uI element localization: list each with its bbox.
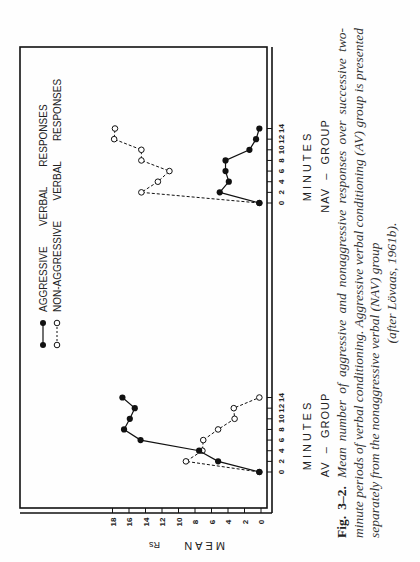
- open-circle-marker-icon: [200, 437, 206, 443]
- x-tick-label: 0: [277, 469, 286, 474]
- y-tick-label: 0: [257, 519, 266, 524]
- y-axis-ticks: 024681012141618: [109, 508, 267, 526]
- filled-circle-marker-icon: [253, 136, 259, 142]
- rotated-figure-page: 024681012141618 02468101214 02468101214 …: [0, 0, 420, 562]
- open-circle-marker-icon: [215, 427, 221, 433]
- open-circle-marker-icon: [111, 136, 117, 142]
- legend-nonaggressive-label: NON-AGGRESSIVE VERBAL RESPONSES: [52, 79, 63, 312]
- legend-filled-marker-icon: [40, 342, 46, 348]
- filled-circle-marker-icon: [196, 448, 202, 454]
- open-circle-marker-icon: [167, 168, 173, 174]
- nonaggressive-series-line: [114, 129, 259, 203]
- x-tick-label: 4: [277, 179, 286, 184]
- open-circle-marker-icon: [139, 147, 145, 153]
- x-tick-label: 10: [277, 414, 286, 423]
- filled-circle-marker-icon: [132, 405, 138, 411]
- x-tick-label: 14: [277, 124, 286, 133]
- open-circle-marker-icon: [139, 190, 145, 196]
- x-axis-title-av: MINUTES: [301, 400, 313, 471]
- av-group-plot: [119, 394, 262, 475]
- open-circle-marker-icon: [257, 395, 263, 401]
- filled-circle-marker-icon: [127, 416, 133, 422]
- figure-caption: Fig. 3–2.Mean number of aggressive and n…: [334, 28, 400, 538]
- filled-circle-marker-icon: [215, 458, 221, 464]
- filled-circle-marker-icon: [256, 200, 262, 206]
- open-circle-marker-icon: [112, 126, 118, 132]
- x-tick-label: 0: [277, 200, 286, 205]
- x-tick-label: 12: [277, 134, 286, 143]
- y-tick-label: 8: [191, 519, 200, 524]
- figure-chart: 024681012141618 02468101214 02468101214 …: [0, 0, 330, 562]
- x-axis-ticks-av: 02468101214: [267, 393, 286, 475]
- x-axis-title-nav: MINUTES: [301, 131, 313, 202]
- y-tick-label: 14: [142, 517, 151, 526]
- y-tick-label: 4: [224, 519, 233, 524]
- filled-circle-marker-icon: [246, 147, 252, 153]
- nav-group-plot: [111, 125, 262, 206]
- x-tick-label: 12: [277, 403, 286, 412]
- open-circle-marker-icon: [231, 405, 237, 411]
- y-tick-label: 18: [109, 517, 118, 526]
- filled-circle-marker-icon: [222, 157, 228, 163]
- y-tick-label: 12: [158, 517, 167, 526]
- y-tick-label: 6: [208, 519, 217, 524]
- open-circle-marker-icon: [139, 158, 145, 164]
- av-group-title: AV – GROUP: [319, 393, 330, 478]
- y-axis-subscript: Rs: [149, 540, 160, 550]
- filled-circle-marker-icon: [226, 179, 232, 185]
- filled-circle-marker-icon: [222, 168, 228, 174]
- legend-open-marker-icon: [54, 342, 60, 348]
- filled-circle-marker-icon: [121, 426, 127, 432]
- open-circle-marker-icon: [232, 416, 238, 422]
- filled-circle-marker-icon: [137, 437, 143, 443]
- legend: AGGRESSIVE VERBAL RESPONSES NON-AGGRESSI…: [38, 79, 63, 348]
- caption-line-1: Mean number of aggressive and nonaggress…: [334, 58, 349, 478]
- aggressive-series-line: [122, 398, 259, 472]
- filled-circle-marker-icon: [119, 394, 125, 400]
- y-axis-title: MEAN: [181, 540, 225, 552]
- filled-circle-marker-icon: [256, 469, 262, 475]
- legend-open-marker-icon: [54, 320, 60, 326]
- x-tick-label: 6: [277, 437, 286, 442]
- filled-circle-marker-icon: [217, 189, 223, 195]
- x-tick-label: 10: [277, 145, 286, 154]
- legend-filled-marker-icon: [40, 320, 46, 326]
- x-tick-label: 2: [277, 190, 286, 195]
- x-tick-label: 8: [277, 427, 286, 432]
- y-tick-label: 2: [241, 519, 250, 524]
- open-circle-marker-icon: [183, 459, 189, 465]
- x-tick-label: 14: [277, 393, 286, 402]
- nav-group-title: NAV – GROUP: [319, 119, 330, 212]
- x-tick-label: 4: [277, 448, 286, 453]
- x-tick-label: 6: [277, 168, 286, 173]
- legend-aggressive-label: AGGRESSIVE VERBAL RESPONSES: [38, 104, 49, 312]
- open-circle-marker-icon: [155, 179, 161, 185]
- figure-label: Fig. 3–2.: [334, 486, 349, 538]
- filled-circle-marker-icon: [256, 125, 262, 131]
- caption-line-4: (after Lövaas, 1961b).: [384, 28, 401, 538]
- x-tick-label: 2: [277, 459, 286, 464]
- x-tick-label: 8: [277, 158, 286, 163]
- x-axis-ticks-nav: 02468101214: [267, 124, 286, 206]
- y-tick-label: 10: [175, 517, 184, 526]
- nonaggressive-series-line: [186, 398, 259, 472]
- y-tick-label: 16: [125, 517, 134, 526]
